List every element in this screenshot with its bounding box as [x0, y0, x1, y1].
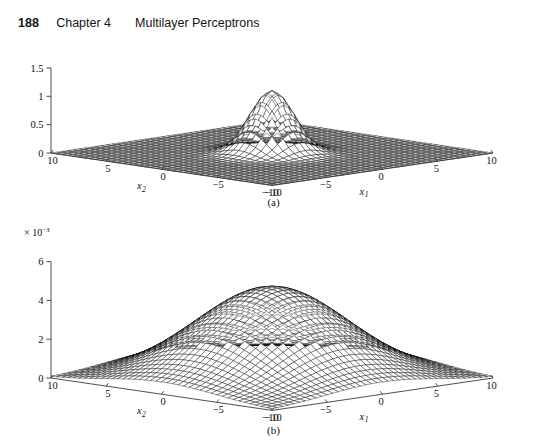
- chapter-title: Multilayer Perceptrons: [135, 16, 259, 30]
- svg-text:x2: x2: [136, 405, 146, 419]
- surface-plot-b: 02461050−5−10−10−50510x2x1× 10−3: [0, 222, 547, 442]
- z-tick-label: 1: [38, 91, 43, 102]
- x2-axis-label: x2: [136, 405, 146, 419]
- x2-tick-label: 0: [160, 171, 165, 182]
- figure-caption-b: (b): [0, 424, 547, 436]
- x1-tick-label: 5: [434, 388, 439, 399]
- page-number: 188: [18, 16, 39, 30]
- z-tick-label: 0.5: [30, 119, 43, 130]
- svg-text:x2: x2: [136, 180, 146, 194]
- x2-tick-label: 10: [47, 380, 58, 391]
- x1-axis-label: x1: [358, 411, 368, 425]
- x1-tick-label: −10: [262, 412, 278, 423]
- surface-plot-a: 00.511.51050−5−10−10−50510x2x1: [0, 40, 547, 222]
- z-tick-label: 0: [38, 373, 43, 384]
- x1-tick-label: 10: [486, 380, 497, 391]
- x1-tick-label: 10: [486, 155, 497, 166]
- x1-tick-label: 0: [378, 396, 383, 407]
- x1-tick-label: 0: [378, 171, 383, 182]
- figure-panel-a: 00.511.51050−5−10−10−50510x2x1: [0, 40, 547, 220]
- x1-tick-label: 5: [434, 163, 439, 174]
- surface-mesh: [51, 286, 493, 409]
- x2-tick-label: −5: [213, 179, 224, 190]
- x2-tick-label: −5: [213, 404, 224, 415]
- running-head: 188 Chapter 4 Multilayer Perceptrons: [18, 16, 259, 30]
- z-axis-multiplier: × 10−3: [24, 226, 50, 238]
- z-tick-label: 1.5: [30, 63, 43, 74]
- z-tick-label: 0: [38, 148, 43, 159]
- x2-tick-label: 5: [105, 163, 110, 174]
- svg-text:x1: x1: [358, 411, 368, 425]
- x2-tick-label: 0: [160, 396, 165, 407]
- z-tick-label: 2: [38, 334, 43, 345]
- x2-axis-label: x2: [136, 180, 146, 194]
- z-tick-label: 4: [38, 295, 44, 306]
- figure-panel-b: 02461050−5−10−10−50510x2x1× 10−3: [0, 222, 547, 442]
- z-tick-label: 6: [38, 256, 43, 267]
- x2-tick-label: 5: [105, 388, 110, 399]
- svg-text:× 10−3: × 10−3: [24, 226, 50, 238]
- figure-caption-a: (a): [0, 196, 547, 208]
- chapter-label: Chapter 4: [56, 16, 111, 30]
- x2-tick-label: 10: [47, 155, 58, 166]
- surface-mesh: [51, 91, 493, 186]
- page-canvas: 188 Chapter 4 Multilayer Perceptrons 00.…: [0, 0, 547, 445]
- x1-tick-label: −5: [320, 179, 331, 190]
- x1-tick-label: −5: [320, 404, 331, 415]
